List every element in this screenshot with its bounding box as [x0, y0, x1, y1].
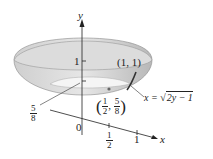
y-tick-five-eighths: 58 [30, 104, 37, 123]
origin-label: 0 [76, 122, 82, 133]
curve-equation-label: x = √2y − 1 [144, 93, 193, 103]
point-half-fiveeighths-marker [107, 87, 110, 90]
point-one-one-label: (1, 1) [117, 57, 141, 68]
y-tick-1: 1 [74, 56, 80, 67]
y-axis-label: y [78, 10, 83, 21]
x-tick-half: 12 [106, 131, 113, 150]
leader-curve [131, 86, 144, 97]
point-half-fiveeighths-label: (12, 58) [96, 97, 126, 116]
x-axis-label: x [160, 134, 165, 145]
x-tick-1: 1 [134, 134, 140, 145]
